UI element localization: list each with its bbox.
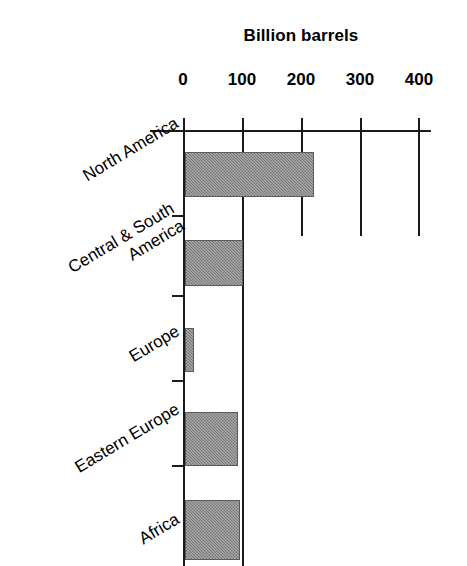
category-label-eastern-europe: Eastern Europe bbox=[27, 399, 183, 504]
category-label-africa: Africa bbox=[80, 509, 183, 566]
chart-figure: Billion barrels 0 100 200 300 400 bbox=[0, 0, 467, 566]
category-label-europe: Europe bbox=[61, 321, 183, 405]
y-axis-category-labels: North America Central & South America Eu… bbox=[0, 0, 467, 566]
